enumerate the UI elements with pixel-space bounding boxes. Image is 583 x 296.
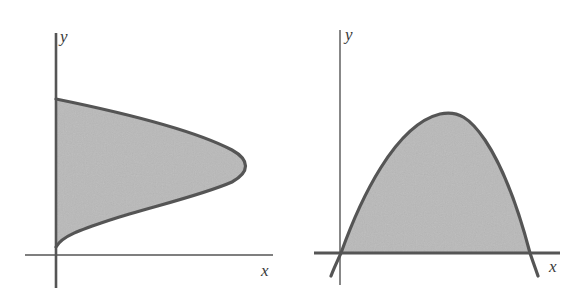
right-y-axis-label: y — [343, 25, 353, 44]
left-graph: y x — [25, 27, 273, 288]
left-x-axis-label: x — [260, 261, 269, 280]
figure: y x y x — [0, 0, 583, 296]
left-y-axis-label: y — [58, 27, 68, 46]
right-graph: y x — [314, 25, 560, 285]
right-shaded-region — [341, 113, 530, 253]
right-x-axis-label: x — [548, 257, 557, 276]
